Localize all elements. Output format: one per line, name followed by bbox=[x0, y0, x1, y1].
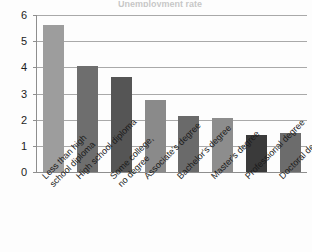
y-axis-tick bbox=[33, 146, 37, 147]
y-axis-tick-label: 6 bbox=[1, 15, 27, 16]
y-axis-tick-label: 2 bbox=[1, 119, 27, 120]
y-axis-tick-label: 3 bbox=[1, 93, 27, 94]
y-axis-tick bbox=[33, 94, 37, 95]
y-axis-tick-label: 4 bbox=[1, 67, 27, 68]
y-axis-tick bbox=[33, 41, 37, 42]
x-axis-labels: Less than highschool diplomaHigh school … bbox=[36, 174, 312, 252]
y-axis-tick bbox=[33, 172, 37, 173]
y-axis-tick-label: 0 bbox=[1, 172, 27, 173]
y-axis-tick-label: 5 bbox=[1, 41, 27, 42]
bar bbox=[43, 25, 64, 172]
y-axis-tick bbox=[33, 67, 37, 68]
y-axis-tick bbox=[33, 120, 37, 121]
bar-chart: Unemployment rate 0123456 Less than high… bbox=[0, 0, 312, 252]
y-axis-tick-label: 1 bbox=[1, 145, 27, 146]
y-axis-tick bbox=[33, 15, 37, 16]
chart-title-clipped: Unemployment rate bbox=[60, 0, 260, 7]
